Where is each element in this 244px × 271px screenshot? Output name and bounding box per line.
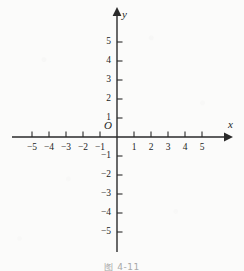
- coordinate-axes-svg: [0, 0, 244, 271]
- y-tick-label-neg5: −5: [101, 227, 111, 237]
- x-tick-label-3: 3: [166, 143, 171, 153]
- y-tick-label-neg3: −3: [101, 189, 111, 199]
- y-tick-label-1: 1: [106, 113, 111, 123]
- x-tick-label-neg5: −5: [27, 143, 37, 153]
- figure-caption: 图 4-11: [0, 263, 244, 271]
- x-axis-arrowhead-icon: [224, 133, 233, 142]
- y-tick-label-neg2: −2: [101, 170, 111, 180]
- y-axis-arrowhead-icon: [113, 7, 122, 16]
- y-axis-label: y: [122, 9, 127, 20]
- y-tick-label-5: 5: [106, 37, 111, 47]
- y-tick-label-neg1: −1: [101, 151, 111, 161]
- x-tick-label-5: 5: [200, 143, 205, 153]
- x-tick-label-1: 1: [132, 143, 137, 153]
- y-tick-label-neg4: −4: [101, 208, 111, 218]
- x-tick-label-2: 2: [149, 143, 154, 153]
- x-tick-label-neg3: −3: [61, 143, 71, 153]
- y-tick-label-4: 4: [106, 56, 111, 66]
- y-tick-label-3: 3: [106, 75, 111, 85]
- x-tick-label-neg2: −2: [78, 143, 88, 153]
- x-axis-label: x: [228, 119, 233, 130]
- coordinate-plane-figure: O y x −5 −4 −3 −2 −1 1 2 3 4 5 1 2 3 4 5…: [0, 0, 244, 271]
- y-tick-label-2: 2: [106, 94, 111, 104]
- x-tick-label-4: 4: [183, 143, 188, 153]
- x-tick-label-neg4: −4: [44, 143, 54, 153]
